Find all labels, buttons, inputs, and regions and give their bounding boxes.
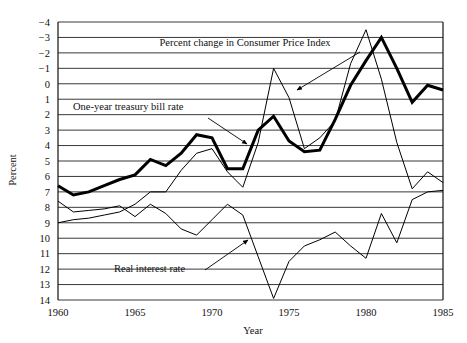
y-tick-label-12: −2 (39, 48, 50, 59)
y-tick-label--3: 13 (40, 279, 51, 290)
annotation-label-0: Percent change in Consumer Price Index (159, 37, 331, 48)
y-tick-label-9: 1 (45, 94, 50, 105)
y-tick-label-4: 6 (45, 171, 50, 182)
y-tick-label-0: 10 (40, 233, 51, 244)
x-tick-label-1965: 1965 (125, 307, 146, 318)
x-tick-label-1975: 1975 (279, 307, 300, 318)
y-tick-label-2: 8 (45, 202, 50, 213)
economic-rates-line-chart: 14131211109876543210−1−2−3−4 19601965197… (0, 0, 467, 343)
chart-background (0, 0, 467, 343)
y-tick-label-8: 2 (45, 109, 50, 120)
y-tick-label--4: 14 (40, 295, 51, 306)
y-tick-label-13: −3 (39, 32, 50, 43)
annotation-label-1: One-year treasury bill rate (73, 101, 184, 112)
chart-container: 14131211109876543210−1−2−3−4 19601965197… (0, 0, 467, 343)
y-tick-label-1: 9 (45, 218, 50, 229)
x-tick-label-1970: 1970 (202, 307, 223, 318)
x-tick-label-1985: 1985 (433, 307, 454, 318)
y-tick-label-11: −1 (39, 63, 50, 74)
y-tick-label-14: −4 (39, 17, 51, 28)
y-tick-label-7: 3 (45, 125, 50, 136)
y-tick-label-5: 5 (45, 156, 50, 167)
annotation-label-2: Real interest rate (114, 263, 185, 274)
y-tick-label--1: 11 (40, 248, 50, 259)
x-tick-label-1960: 1960 (48, 307, 69, 318)
x-axis-title: Year (243, 325, 263, 336)
y-axis-title: Percent (7, 154, 18, 186)
x-tick-label-1980: 1980 (356, 307, 377, 318)
y-tick-label-10: 0 (45, 79, 50, 90)
y-tick-label-6: 4 (45, 140, 51, 151)
y-tick-label-3: 7 (45, 187, 50, 198)
y-tick-label--2: 12 (40, 264, 51, 275)
